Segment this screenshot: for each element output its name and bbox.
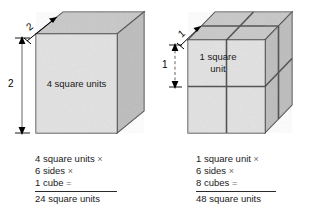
- calc-divider: [35, 191, 117, 192]
- calc-divider: [196, 191, 276, 192]
- subdivided-cube-drawing: [156, 0, 311, 152]
- right-calculation: 1 square unit × 6 sides × 8 cubes = 48 s…: [156, 153, 311, 205]
- right-height-dimension: [169, 43, 182, 89]
- calc-operator: ×: [97, 154, 102, 164]
- calc-line: 6 sides ×: [196, 165, 311, 177]
- left-cube-stage: 2 2 4 square units: [0, 0, 155, 152]
- calc-term: 1 square unit: [196, 153, 251, 164]
- surface-area-figure: 2 2 4 square units 4 square units × 6 si…: [0, 0, 311, 218]
- large-cube-face-label: 4 square units: [39, 78, 114, 90]
- calc-term: 8 cubes: [196, 177, 229, 188]
- calc-operator: =: [66, 178, 71, 188]
- subdivided-cube-face-label: 1 square unit: [191, 51, 245, 74]
- calc-term: 6 sides: [35, 165, 65, 176]
- calc-operator: =: [232, 178, 237, 188]
- calc-line: 1 square unit ×: [196, 153, 311, 165]
- left-panel: 2 2 4 square units 4 square units × 6 si…: [0, 0, 155, 218]
- right-panel: 1 1 1 square unit 1 square unit × 6 side…: [156, 0, 311, 218]
- calc-operator: ×: [68, 166, 73, 176]
- right-cube-stage: 1 1 1 square unit: [156, 0, 311, 152]
- left-height-dimension: [15, 36, 30, 135]
- calc-term: 4 square units: [35, 153, 95, 164]
- calc-line: 8 cubes =: [196, 177, 311, 189]
- calc-term: 1 cube: [35, 177, 64, 188]
- left-height-label: 2: [8, 79, 14, 89]
- calc-operator: ×: [229, 166, 234, 176]
- right-height-label: 1: [162, 60, 168, 70]
- calc-result: 48 square units: [196, 193, 311, 205]
- calc-term: 6 sides: [196, 165, 226, 176]
- calc-operator: ×: [254, 154, 259, 164]
